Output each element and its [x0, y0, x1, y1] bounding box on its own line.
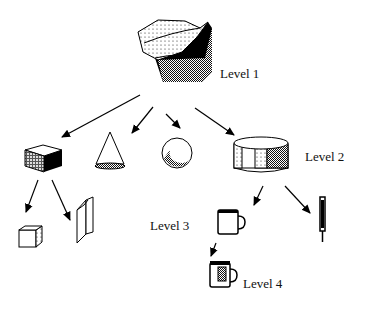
- small-box-node: [19, 226, 42, 247]
- complex-solid-node: [138, 20, 212, 82]
- sphere-node: [162, 138, 192, 168]
- hierarchy-diagram: Level 1 Level 2 Level 3 Level 4: [0, 0, 366, 312]
- cylinder-node: [234, 137, 288, 172]
- level-2-label: Level 2: [305, 149, 344, 165]
- pen-node: [320, 197, 325, 242]
- level-3-label: Level 3: [150, 218, 189, 234]
- level-4-label: Level 4: [243, 276, 282, 292]
- mug-node: [218, 210, 245, 234]
- box-node: [25, 145, 62, 172]
- decorated-mug-node: [210, 261, 237, 287]
- book-node: [77, 197, 93, 243]
- level-1-label: Level 1: [220, 66, 259, 82]
- cone-node: [95, 132, 125, 169]
